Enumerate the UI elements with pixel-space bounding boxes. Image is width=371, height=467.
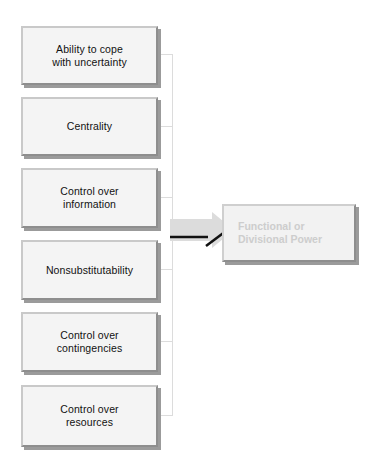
source-box-label: Control over resources [54, 403, 124, 429]
source-box-label: Nonsubstitutability [40, 264, 139, 277]
target-box-functional-or-divisional-power[interactable]: Functional or Divisional Power [222, 204, 356, 262]
source-box-ability-to-cope-with-uncertainty[interactable]: Ability to cope with uncertainty [21, 26, 158, 85]
target-box-label: Functional or Divisional Power [224, 220, 322, 247]
diagram-canvas: Ability to cope with uncertainty Central… [0, 0, 371, 467]
connector-stub-centrality [158, 126, 173, 127]
connector-stub-control-over-resources [158, 415, 173, 416]
source-box-label: Centrality [61, 120, 118, 133]
source-box-label: Control over contingencies [51, 329, 129, 355]
connector-stub-ability-to-cope-with-uncertainty [158, 54, 173, 55]
connector-stub-control-over-information [158, 197, 173, 198]
source-box-centrality[interactable]: Centrality [21, 97, 158, 156]
connector-stub-nonsubstitutability [158, 269, 173, 270]
source-box-control-over-contingencies[interactable]: Control over contingencies [21, 312, 158, 372]
source-box-control-over-resources[interactable]: Control over resources [21, 385, 158, 447]
source-box-label: Control over information [54, 185, 124, 211]
source-box-label: Ability to cope with uncertainty [46, 43, 133, 69]
source-box-nonsubstitutability[interactable]: Nonsubstitutability [21, 240, 158, 300]
source-box-control-over-information[interactable]: Control over information [21, 168, 158, 228]
connector-stub-control-over-contingencies [158, 341, 173, 342]
